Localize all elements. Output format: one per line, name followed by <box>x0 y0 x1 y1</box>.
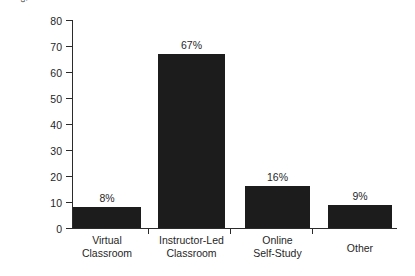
bar-value-virtual-classroom: 8% <box>99 192 114 204</box>
y-tick-40: 40 <box>66 124 72 125</box>
x-tick-label-other: Other <box>315 242 405 255</box>
y-tick-label-80: 80 <box>50 15 62 27</box>
x-tick-label-online-self-study: Online Self-Study <box>228 234 327 260</box>
bar-value-other: 9% <box>352 190 367 202</box>
y-tick-label-40: 40 <box>50 119 62 131</box>
y-tick-60: 60 <box>66 72 72 73</box>
y-axis-title: % of Formal Training Hours Delivered by … <box>14 0 44 34</box>
x-tick-label-online-self-study-line-1: Online <box>228 234 327 247</box>
bar-chart: % of Formal Training Hours Delivered by … <box>0 0 415 276</box>
plot-area: 0 10 20 30 40 50 60 70 80 8% <box>72 20 397 228</box>
bar-other: 9% <box>328 205 392 228</box>
y-tick-label-20: 20 <box>50 171 62 183</box>
y-tick-label-70: 70 <box>50 41 62 53</box>
y-axis-title-line-2: Delivered by Each Method <box>29 0 40 1</box>
bar-value-online-self-study: 16% <box>267 171 288 183</box>
y-tick-70: 70 <box>66 46 72 47</box>
x-tick-label-other-line-1: Other <box>315 242 405 255</box>
y-tick-label-0: 0 <box>56 223 62 235</box>
y-tick-label-10: 10 <box>50 197 62 209</box>
y-tick-80: 80 <box>66 20 72 21</box>
bar-online-self-study: 16% <box>245 186 310 228</box>
bar-virtual-classroom: 8% <box>73 207 141 228</box>
y-axis-title-line-1: % of Formal Training Hours <box>18 0 29 3</box>
y-tick-50: 50 <box>66 98 72 99</box>
bar-instructor-led-classroom: 67% <box>158 54 225 228</box>
bar-value-instructor-led-classroom: 67% <box>181 39 202 51</box>
x-tick-label-online-self-study-line-2: Self-Study <box>228 247 327 260</box>
y-tick-label-60: 60 <box>50 67 62 79</box>
y-tick-label-50: 50 <box>50 93 62 105</box>
y-tick-0: 0 <box>66 228 72 229</box>
y-tick-label-30: 30 <box>50 145 62 157</box>
y-tick-10: 10 <box>66 202 72 203</box>
y-axis-line <box>72 20 73 228</box>
x-axis-line <box>72 228 397 229</box>
y-tick-30: 30 <box>66 150 72 151</box>
y-tick-20: 20 <box>66 176 72 177</box>
